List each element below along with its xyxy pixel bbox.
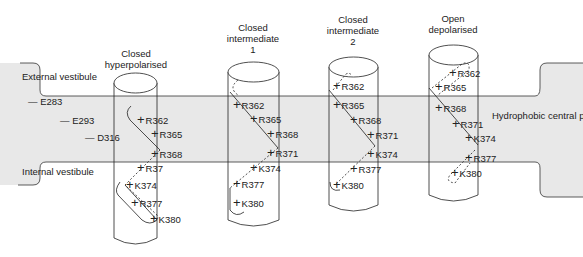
gating-charge-r377: +R377 <box>350 164 381 175</box>
positive-charge-icon: + <box>233 195 241 210</box>
gating-charge-r365: +R365 <box>435 82 466 93</box>
gating-charge-r368: +R368 <box>435 103 466 114</box>
gating-charge-r377: +R377 <box>465 153 496 164</box>
gating-charge-r362: +R362 <box>233 100 264 111</box>
external-vestibule-label: External vestibule <box>22 71 78 82</box>
positive-charge-icon: + <box>131 195 139 210</box>
positive-charge-icon: + <box>233 97 241 112</box>
state-title-open-depolarised: Opendepolarised <box>422 13 484 35</box>
gating-charge-r37: +R37 <box>137 163 163 174</box>
positive-charge-icon: + <box>449 65 457 80</box>
gating-charge-r362: +R362 <box>137 115 168 126</box>
gating-charge-k380: +K380 <box>333 180 364 191</box>
gating-charge-r365: +R365 <box>250 114 281 125</box>
positive-charge-icon: + <box>333 177 341 192</box>
positive-charge-icon: + <box>267 126 275 141</box>
membrane-outline-bottom <box>18 162 583 197</box>
state-title-closed-intermediate-2: Closedintermediate2 <box>322 14 384 47</box>
gating-charge-k374: +K374 <box>367 149 398 160</box>
gating-charge-r371: +R371 <box>267 148 298 159</box>
internal-vestibule-label: Internal vestibule <box>22 166 78 177</box>
gating-charge-r377: +R377 <box>233 179 264 190</box>
positive-charge-icon: + <box>250 111 258 126</box>
positive-charge-icon: + <box>451 165 459 180</box>
positive-charge-icon: + <box>333 97 341 112</box>
gating-charge-r368: +R368 <box>267 129 298 140</box>
positive-charge-icon: + <box>367 127 375 142</box>
gating-charge-r362: +R362 <box>449 68 480 79</box>
hydrophobic-pore-label: Hydrophobic central pore <box>492 110 562 121</box>
positive-charge-icon: + <box>151 126 159 141</box>
gating-charge-r365: +R365 <box>333 100 364 111</box>
positive-charge-icon: + <box>350 112 358 127</box>
state-title-closed-hyperpolarised: Closedhyperpolarised <box>100 48 172 70</box>
gating-charge-r368: +R368 <box>151 149 182 160</box>
gating-charge-k374: +K374 <box>465 133 496 144</box>
positive-charge-icon: + <box>126 177 134 192</box>
positive-charge-icon: + <box>435 100 443 115</box>
positive-charge-icon: + <box>137 112 145 127</box>
gating-charge-r371: +R371 <box>367 130 398 141</box>
positive-charge-icon: + <box>435 79 443 94</box>
positive-charge-icon: + <box>333 78 341 93</box>
positive-charge-icon: + <box>151 146 159 161</box>
gating-charge-k380: +K380 <box>150 214 181 225</box>
positive-charge-icon: + <box>137 160 145 175</box>
positive-charge-icon: + <box>267 145 275 160</box>
positive-charge-icon: + <box>250 160 258 175</box>
positive-charge-icon: + <box>233 176 241 191</box>
acidic-residue-e283: — E283 <box>28 97 62 107</box>
positive-charge-icon: + <box>150 211 158 226</box>
positive-charge-icon: + <box>350 161 358 176</box>
gating-charge-r368: +R368 <box>350 115 381 126</box>
acidic-residue-e293: — E293 <box>60 116 94 126</box>
positive-charge-icon: + <box>367 146 375 161</box>
gating-charge-r371: +R371 <box>452 119 483 130</box>
positive-charge-icon: + <box>452 116 460 131</box>
acidic-residue-d316: — D316 <box>85 133 120 143</box>
gating-charge-k380: +K380 <box>451 168 482 179</box>
gating-charge-k380: +K380 <box>233 198 264 209</box>
gating-charge-r362: +R362 <box>333 81 364 92</box>
gating-charge-k374: +K374 <box>250 163 281 174</box>
positive-charge-icon: + <box>465 130 473 145</box>
gating-charge-r365: +R365 <box>151 129 182 140</box>
state-title-closed-intermediate-1: Closedintermediate1 <box>222 22 284 55</box>
gating-charge-k374: +K374 <box>126 180 157 191</box>
gating-charge-r377: +R377 <box>131 198 162 209</box>
positive-charge-icon: + <box>465 150 473 165</box>
